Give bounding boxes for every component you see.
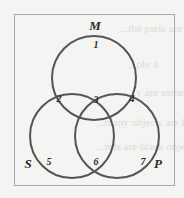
circle-s [30,94,114,178]
set-label-m: M [88,18,101,33]
circle-p [75,94,159,178]
region-label-7: 7 [141,156,147,167]
region-label-5: 5 [47,156,52,167]
venn-diagram: M S P 1 2 3 4 5 6 7 [0,0,184,198]
region-label-4: 4 [129,93,135,104]
set-label-p: P [154,156,163,171]
set-label-s: S [24,156,31,171]
region-label-6: 6 [94,156,99,167]
region-label-1: 1 [94,39,99,50]
region-label-2: 2 [56,93,62,104]
region-label-3: 3 [93,94,99,105]
